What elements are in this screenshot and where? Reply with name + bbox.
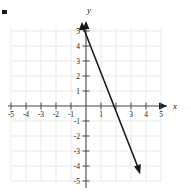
y-tick-label: -5 (74, 177, 80, 186)
x-tick-label: 5 (159, 110, 163, 119)
y-tick-label: 1 (76, 87, 80, 96)
x-tick-label: -4 (23, 110, 29, 119)
y-tick-label: 5 (76, 27, 80, 36)
graph-figure: -5 -4 -3 -2 -1 1 3 4 5 5 4 3 2 1 -1 -2 -… (0, 0, 191, 194)
y-tick-label: 4 (76, 42, 80, 51)
x-tick-label: 4 (144, 110, 148, 119)
y-axis-label: y (86, 5, 91, 15)
x-tick-label: -5 (8, 110, 14, 119)
y-tick-label: -2 (74, 132, 80, 141)
y-tick-label: 3 (76, 57, 80, 66)
x-axis-label: x (172, 101, 177, 111)
x-tick-label: -2 (53, 110, 59, 119)
x-tick-label: -3 (38, 110, 44, 119)
axes (8, 24, 167, 188)
y-tick-label: -3 (74, 147, 80, 156)
y-tick-label: 2 (76, 72, 80, 81)
x-axis-arrow (159, 103, 167, 110)
coordinate-plane: -5 -4 -3 -2 -1 1 3 4 5 5 4 3 2 1 -1 -2 -… (0, 0, 191, 194)
x-tick-label: 3 (129, 110, 133, 119)
y-tick-label: -4 (74, 162, 80, 171)
x-tick-label: 1 (99, 110, 103, 119)
y-tick-label: -1 (74, 117, 80, 126)
